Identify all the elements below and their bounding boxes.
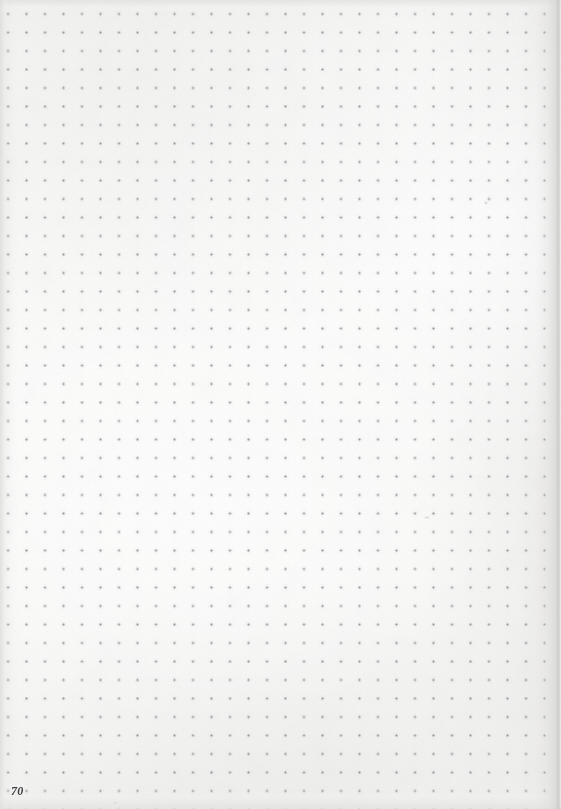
dot-grid: [0, 0, 561, 809]
notebook-page: 70: [0, 0, 561, 809]
page-number: 70: [11, 784, 23, 799]
